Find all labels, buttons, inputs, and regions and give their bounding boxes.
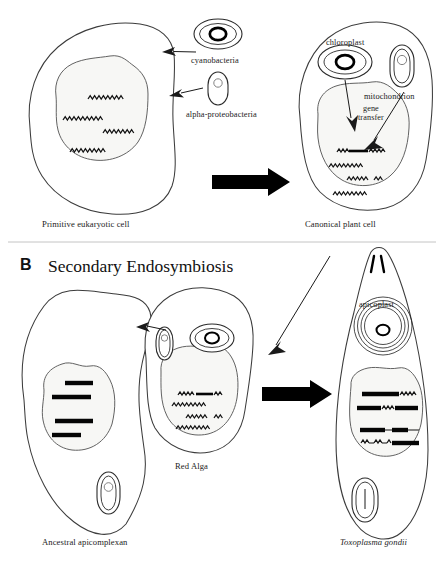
label-gene-transfer: gene transfer [358,104,384,122]
endosymbiosis-figure: Primary Endosymbiosis [0,0,444,562]
mitochondrion [390,45,414,87]
label-cyanobacteria: cyanobacteria [191,56,239,65]
apicomplexan-mitochondrion [97,472,120,514]
caption-ancestral-apicomplexan: Ancestral apicomplexan [42,537,127,547]
mitochondrion-genome [104,483,113,492]
red-alga-cell [145,288,253,453]
cyanobacterium [194,19,242,49]
caption-toxoplasma-gondii: Toxoplasma gondii [340,537,407,547]
caption-primitive-eukaryotic-cell: Primitive eukaryotic cell [42,219,129,229]
red-alga-mitochondrion [156,327,173,360]
mitochondrion-genome [161,335,167,341]
arrow-redalga-to-toxoplasma [268,256,330,355]
alpha-proteobacterium-genome [214,79,222,87]
chloroplast-inner-membrane [195,329,229,348]
panel-b-heading: Secondary Endosymbiosis [48,256,233,277]
primitive-cell-nucleus [56,56,148,161]
mitochondrion-genome [397,55,406,64]
panel-b-letter: B [20,256,32,274]
toxoplasma-mitochondrion [352,478,378,522]
alpha-proteobacterium [208,72,228,105]
label-mitochondrion: mitochondrion [364,92,415,101]
label-apicoplast: apicoplast [359,300,394,309]
panel-b-graphics [22,248,428,539]
primitive-eukaryotic-cell [29,23,175,214]
label-gene-transfer-line2: transfer [358,113,384,122]
chloroplast-inner-membrane [324,50,366,74]
caption-canonical-plant-cell: Canonical plant cell [305,219,376,229]
label-alpha-proteobacteria: alpha-proteobacteria [186,110,257,119]
red-alga-nucleus [161,346,238,435]
ancestral-apicomplexan-cell [22,290,151,534]
mitochondrion-inner-membrane [101,476,116,510]
mitochondrion-inner-membrane [159,330,170,357]
transition-arrow-panel-b [262,380,332,408]
caption-red-alga: Red Alga [175,461,208,471]
mitochondrion-inner-membrane [394,49,410,83]
figure-canvas [0,0,444,562]
label-chloroplast: chloroplast [326,38,364,47]
label-gene-transfer-line1: gene [363,104,379,113]
toxoplasma-gondii-cell [336,248,428,539]
transition-arrow-panel-a [212,168,290,196]
chloroplast [318,45,372,79]
red-alga-chloroplast [190,324,234,352]
alpha-proteobacterium-membrane [208,72,228,105]
